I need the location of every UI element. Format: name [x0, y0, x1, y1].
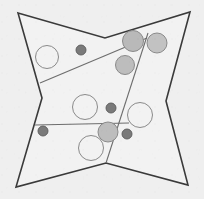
star-diagram [0, 0, 204, 199]
dark-dot-lower-right [122, 129, 132, 139]
dark-dot-upper-left [76, 45, 86, 55]
dark-dot-center-right [106, 103, 116, 113]
gray-circle-top-notch [123, 31, 144, 52]
gray-circle-mid-right [116, 56, 135, 75]
gray-circle-lower-center [98, 122, 118, 142]
dark-dot-lower-left [38, 126, 48, 136]
figure-canvas [0, 0, 204, 199]
gray-circle-top-right [147, 33, 167, 53]
